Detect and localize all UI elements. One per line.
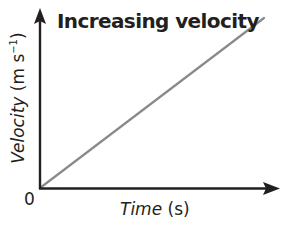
- y-axis-label-main: Velocity: [8, 97, 28, 164]
- x-axis-label-unit: (s): [162, 199, 190, 219]
- y-axis-label-unit-prefix: (m s: [8, 54, 28, 97]
- x-axis-label-main: Time: [120, 199, 162, 219]
- y-axis-label-unit-suffix: ): [8, 32, 28, 39]
- chart-title: Increasing velocity: [57, 9, 259, 33]
- origin-label: 0: [24, 189, 35, 209]
- y-axis-label: Velocity (m s−1): [8, 32, 28, 163]
- y-axis-label-unit-exponent: −1: [8, 39, 19, 54]
- x-axis-label: Time (s): [120, 199, 190, 219]
- chart-area: [0, 0, 288, 230]
- velocity-line: [40, 18, 264, 188]
